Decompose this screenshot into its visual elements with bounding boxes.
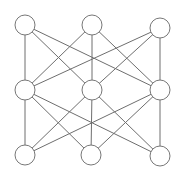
node-bottom-left — [15, 145, 35, 165]
node-top-left — [15, 15, 35, 35]
network-diagram — [0, 0, 184, 176]
node-middle-center — [82, 80, 102, 100]
node-top-middle — [82, 15, 102, 35]
node-bottom-middle — [81, 145, 101, 165]
node-middle-left — [15, 80, 35, 100]
node-bottom-right — [150, 146, 170, 166]
node-top-right — [150, 18, 170, 38]
node-middle-right — [150, 80, 170, 100]
